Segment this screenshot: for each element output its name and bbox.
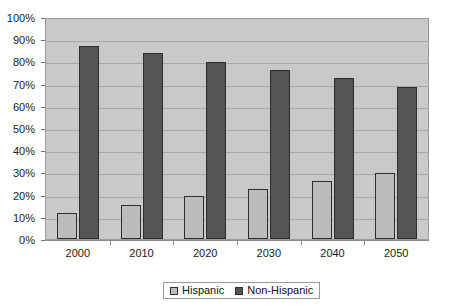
bar-group-2050 — [375, 19, 417, 239]
legend-swatch-icon — [170, 287, 178, 295]
x-tick-label: 2020 — [193, 248, 217, 259]
bar-non-hispanic-2040[interactable] — [334, 78, 354, 239]
y-tick-label: 80% — [13, 57, 35, 68]
legend-label: Hispanic — [182, 285, 224, 296]
bar-non-hispanic-2000[interactable] — [79, 46, 99, 239]
bar-hispanic-2010[interactable] — [121, 205, 141, 239]
y-tick-mark — [41, 218, 45, 219]
y-tick-label: 0% — [19, 235, 35, 246]
x-axis: 200020102020203020402050 — [46, 248, 428, 266]
bar-non-hispanic-2030[interactable] — [270, 70, 290, 239]
y-tick-label: 20% — [13, 190, 35, 201]
bar-non-hispanic-2050[interactable] — [397, 87, 417, 239]
bar-group-2000 — [57, 19, 99, 239]
bar-hispanic-2030[interactable] — [248, 189, 268, 239]
legend-swatch-icon — [235, 287, 243, 295]
bar-hispanic-2040[interactable] — [312, 181, 332, 239]
x-tick-mark — [364, 241, 365, 245]
y-tick-mark — [41, 18, 45, 19]
x-tick-label: 2030 — [257, 248, 281, 259]
x-tick-label: 2040 — [320, 248, 344, 259]
bar-group-2030 — [248, 19, 290, 239]
y-tick-mark — [41, 173, 45, 174]
x-tick-label: 2050 — [384, 248, 408, 259]
y-tick-mark — [41, 40, 45, 41]
bar-hispanic-2020[interactable] — [184, 196, 204, 239]
bar-non-hispanic-2020[interactable] — [206, 62, 226, 239]
bar-group-2010 — [121, 19, 163, 239]
y-tick-mark — [41, 107, 45, 108]
x-tick-mark — [237, 241, 238, 245]
x-tick-mark — [110, 241, 111, 245]
y-tick-label: 70% — [13, 79, 35, 90]
bar-group-2040 — [312, 19, 354, 239]
legend-entry-non-hispanic[interactable]: Non-Hispanic — [235, 285, 313, 296]
y-tick-label: 10% — [13, 212, 35, 223]
y-tick-label: 40% — [13, 146, 35, 157]
y-tick-label: 60% — [13, 101, 35, 112]
x-tick-mark — [173, 241, 174, 245]
y-tick-label: 50% — [13, 124, 35, 135]
bar-hispanic-2050[interactable] — [375, 173, 395, 239]
y-tick-mark — [41, 62, 45, 63]
legend: HispanicNon-Hispanic — [163, 282, 320, 299]
y-tick-mark — [41, 196, 45, 197]
bar-group-2020 — [184, 19, 226, 239]
legend-entry-hispanic[interactable]: Hispanic — [170, 285, 224, 296]
y-tick-mark — [41, 240, 45, 241]
x-tick-label: 2010 — [129, 248, 153, 259]
y-tick-label: 90% — [13, 35, 35, 46]
y-tick-label: 100% — [7, 13, 35, 24]
legend-label: Non-Hispanic — [247, 285, 313, 296]
bar-hispanic-2000[interactable] — [57, 213, 77, 239]
x-tick-mark — [301, 241, 302, 245]
x-tick-label: 2000 — [66, 248, 90, 259]
bar-chart: 0%10%20%30%40%50%60%70%80%90%100% 200020… — [0, 0, 454, 306]
y-tick-mark — [41, 129, 45, 130]
y-axis: 0%10%20%30%40%50%60%70%80%90%100% — [0, 18, 40, 240]
y-tick-label: 30% — [13, 168, 35, 179]
bars-layer — [46, 19, 428, 239]
y-tick-mark — [41, 85, 45, 86]
y-tick-mark — [41, 151, 45, 152]
bar-non-hispanic-2010[interactable] — [143, 53, 163, 239]
